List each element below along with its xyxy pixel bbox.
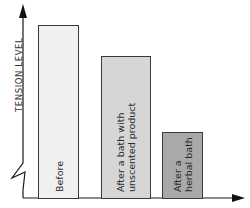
bar-chart: TENSION LEVEL Before After a bath with u… (0, 0, 250, 208)
bar-before: Before (38, 25, 79, 199)
y-axis-arrow-icon (19, 4, 27, 18)
bar-unscented: After a bath with unscented product (101, 56, 151, 199)
bar-label-herbal: After a herbal bath (172, 137, 194, 192)
bar-label-before: Before (53, 161, 64, 192)
x-axis-arrow-icon (232, 194, 245, 202)
bar-label-unscented: After a bath with unscented product (115, 103, 137, 192)
y-axis-label: TENSION LEVEL (14, 38, 24, 112)
bar-herbal: After a herbal bath (162, 132, 203, 199)
